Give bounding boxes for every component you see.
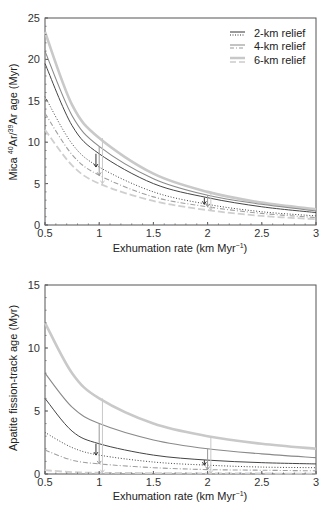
bottom-ylabel: Apatite fission-track age (Myr) — [7, 305, 19, 451]
legend-label-4km: 4-km relief — [254, 40, 306, 52]
curve-dotted-dark — [45, 97, 316, 216]
x-tick-label: 2 — [205, 476, 211, 488]
y-tick-label: 15 — [28, 95, 40, 107]
bottom-arrows — [94, 398, 213, 473]
y-tick-label: 25 — [28, 12, 40, 24]
bottom-ticks: 0.511.522.53051015 — [28, 279, 319, 488]
top-plot: 0.511.522.530510152025 2-km relief 4-km … — [7, 12, 319, 254]
y-tick-label: 20 — [28, 53, 40, 65]
y-tick-label: 0 — [34, 219, 40, 231]
curve-solid-dark — [45, 64, 316, 213]
bottom-plot: 0.511.522.53051015 Apatite fission-track… — [7, 279, 319, 502]
x-tick-label: 2.5 — [254, 227, 269, 239]
curve-dashdot-mid — [45, 113, 316, 217]
x-tick-label: 3 — [313, 227, 319, 239]
curve-solid-mid — [45, 51, 316, 211]
legend-label-6km: 6-km relief — [254, 54, 306, 66]
curve-solid-thick-light — [45, 323, 316, 449]
x-tick-label: 2 — [205, 227, 211, 239]
bottom-xlabel: Exhumation rate (km Myr−1) — [113, 490, 248, 502]
figure: 0.511.522.530510152025 2-km relief 4-km … — [0, 0, 334, 517]
y-tick-label: 10 — [28, 136, 40, 148]
legend-label-2km: 2-km relief — [254, 27, 306, 39]
y-tick-label: 5 — [34, 405, 40, 417]
x-tick-label: 1.5 — [146, 476, 161, 488]
top-xlabel: Exhumation rate (km Myr−1) — [113, 242, 248, 254]
x-tick-label: 2.5 — [254, 476, 269, 488]
x-tick-label: 3 — [313, 476, 319, 488]
bottom-curves — [45, 323, 316, 474]
y-tick-label: 0 — [34, 468, 40, 480]
y-tick-label: 15 — [28, 279, 40, 291]
y-tick-label: 10 — [28, 342, 40, 354]
x-tick-label: 1 — [96, 476, 102, 488]
x-tick-label: 1.5 — [146, 227, 161, 239]
y-tick-label: 5 — [34, 178, 40, 190]
legend: 2-km relief 4-km relief 6-km relief — [230, 27, 306, 66]
top-ylabel: Mica 40Ar/39Ar age (Myr) — [7, 63, 19, 180]
x-tick-label: 1 — [96, 227, 102, 239]
